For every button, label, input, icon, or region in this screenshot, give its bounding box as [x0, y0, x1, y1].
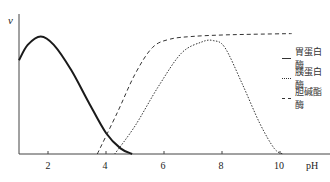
dashed-line-icon	[282, 98, 291, 99]
x-tick-label: 2	[46, 160, 51, 171]
series-trypsin-line	[115, 40, 283, 154]
legend-item-cholinesterase: 胆碱酯酶	[282, 88, 330, 108]
solid-line-icon	[282, 58, 291, 59]
x-axis-label: pH	[306, 160, 318, 171]
series-cholinesterase-line	[97, 34, 291, 154]
y-axis-label: v	[8, 14, 13, 26]
x-tick-label: 6	[161, 160, 166, 171]
dotted-line-icon	[282, 78, 291, 79]
x-tick-label: 10	[274, 160, 284, 171]
x-tick-label: 4	[103, 160, 108, 171]
series-pepsin-line	[19, 36, 132, 154]
legend: 胃蛋白酶 胰蛋白酶 胆碱酯酶	[282, 48, 330, 108]
enzyme-ph-chart	[0, 0, 330, 182]
legend-label: 胆碱酯酶	[295, 85, 330, 111]
x-tick-label: 8	[219, 160, 224, 171]
